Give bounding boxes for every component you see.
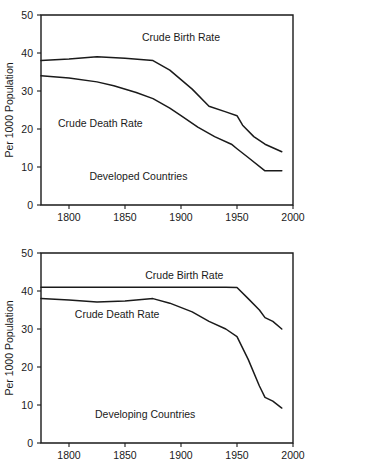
x-tick-label: 1850	[113, 449, 137, 461]
y-tick-label: 30	[21, 85, 33, 97]
panel-title-label: Developing Countries	[95, 408, 195, 420]
series-annotation-label: Crude Death Rate	[58, 117, 143, 129]
x-tick-label: 2000	[281, 211, 305, 223]
x-axis-tick-labels-developing: 18001850190019502000	[57, 449, 305, 461]
y-axis-tick-labels-developed: 01020304050	[21, 9, 33, 211]
x-tick-label: 2000	[281, 449, 305, 461]
x-tick-label: 1950	[225, 449, 249, 461]
y-tick-label: 0	[27, 437, 33, 449]
y-tick-label: 0	[27, 199, 33, 211]
annotations-developing: Crude Birth RateCrude Death RateDevelopi…	[75, 269, 224, 420]
figure-root: 01020304050 18001850190019502000 Per 100…	[0, 0, 365, 476]
series-lines-developed	[41, 57, 282, 171]
annotations-developed: Crude Birth RateCrude Death RateDevelope…	[58, 31, 220, 182]
y-tick-label: 40	[21, 47, 33, 59]
chart-svg-developing: 01020304050 18001850190019502000 Per 100…	[0, 238, 365, 476]
x-tick-label: 1800	[57, 211, 81, 223]
y-tick-label: 10	[21, 399, 33, 411]
y-axis-tick-labels-developing: 01020304050	[21, 247, 33, 449]
x-tick-label: 1800	[57, 449, 81, 461]
series-lines-developing	[41, 287, 282, 408]
series-line-crude-birth-rate	[41, 57, 282, 152]
y-tick-label: 30	[21, 323, 33, 335]
y-axis-title-developing: Per 1000 Population	[3, 300, 15, 395]
y-axis-title-developed: Per 1000 Population	[3, 62, 15, 157]
x-tick-label: 1850	[113, 211, 137, 223]
series-annotation-label: Crude Birth Rate	[145, 269, 223, 281]
x-tick-label: 1900	[169, 449, 193, 461]
chart-panel-developed: 01020304050 18001850190019502000 Per 100…	[0, 0, 365, 238]
y-tick-label: 50	[21, 247, 33, 259]
series-annotation-label: Crude Death Rate	[75, 308, 160, 320]
y-tick-label: 20	[21, 361, 33, 373]
chart-svg-developed: 01020304050 18001850190019502000 Per 100…	[0, 0, 365, 238]
series-annotation-label: Crude Birth Rate	[142, 31, 220, 43]
y-tick-label: 20	[21, 123, 33, 135]
x-tick-label: 1900	[169, 211, 193, 223]
y-tick-label: 50	[21, 9, 33, 21]
x-axis-tick-labels-developed: 18001850190019502000	[57, 211, 305, 223]
x-tick-label: 1950	[225, 211, 249, 223]
chart-panel-developing: 01020304050 18001850190019502000 Per 100…	[0, 238, 365, 476]
y-tick-label: 40	[21, 285, 33, 297]
panel-title-label: Developed Countries	[89, 170, 187, 182]
y-tick-label: 10	[21, 161, 33, 173]
